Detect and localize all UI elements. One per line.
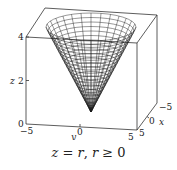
- x-tick-0: 0: [149, 116, 155, 126]
- y-axis: −5 0 5 y: [20, 124, 134, 140]
- z-axis-label: z: [9, 76, 15, 86]
- cone-3d-plot: 4 2 0 z −5 0 5 y −5 0 5 x: [0, 0, 177, 140]
- x-tick-neg5: −5: [159, 102, 173, 112]
- z-tick-2: 2: [18, 76, 24, 86]
- y-tick-0: 0: [77, 127, 83, 137]
- caption-equals: =: [58, 145, 77, 160]
- y-tick-neg5: −5: [20, 126, 34, 136]
- x-axis-label: x: [159, 117, 164, 127]
- caption-condition-op: ≥: [98, 145, 117, 160]
- figure-caption: z = r, r ≥ 0: [0, 145, 177, 160]
- x-tick-5: 5: [139, 128, 145, 138]
- caption-condition-value: 0: [117, 145, 125, 160]
- y-axis-label: y: [70, 132, 77, 140]
- y-tick-5: 5: [128, 132, 134, 140]
- cone-surface-mesh: [46, 13, 136, 112]
- z-tick-4: 4: [18, 32, 24, 42]
- caption-separator: ,: [84, 145, 92, 160]
